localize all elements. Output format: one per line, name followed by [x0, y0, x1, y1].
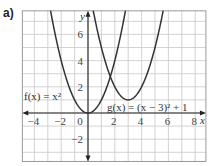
y-tick-label: 2 [78, 81, 84, 93]
x-tick-label: −4 [28, 115, 40, 127]
x-axis-label: x [199, 114, 205, 126]
y-tick-label: 4 [78, 55, 84, 67]
x-tick-label: 6 [165, 115, 171, 127]
f-function-label: f(x) = x² [24, 90, 62, 103]
x-tick-label: 8 [191, 115, 197, 127]
x-tick-label: 0 [77, 115, 83, 127]
y-axis-label: y [79, 10, 85, 22]
y-tick-label: −2 [71, 133, 83, 145]
x-tick-label: −2 [54, 115, 66, 127]
x-tick-label: 2 [111, 115, 117, 127]
g-function-label: g(x) = (x − 3)² + 1 [107, 101, 188, 114]
chart: −4−202468−2246 x y f(x) = x² g(x) = (x −… [0, 0, 211, 166]
y-axis-down-arrow-icon [86, 155, 91, 161]
x-tick-label: 4 [138, 115, 144, 127]
y-tick-label: 6 [78, 28, 84, 40]
y-axis-up-arrow-icon [86, 11, 91, 17]
